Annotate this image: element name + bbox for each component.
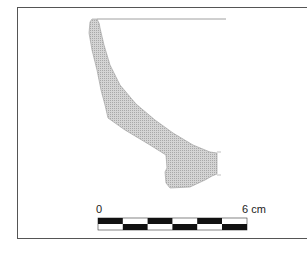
sherd-drawing (0, 0, 307, 255)
scale-start-label: 0 (96, 204, 102, 215)
sherd-profile (89, 19, 217, 188)
scale-end-label: 6 cm (242, 204, 266, 215)
scale-bar (98, 218, 247, 230)
